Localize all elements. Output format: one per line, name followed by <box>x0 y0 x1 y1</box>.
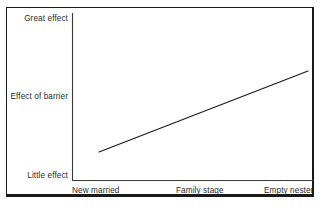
trend-line <box>99 71 308 152</box>
y-tick-label-great-effect: Great effect <box>8 14 68 23</box>
y-tick-label-little-effect: Little effect <box>8 171 68 180</box>
chart-figure: Great effect Effect of barrier Little ef… <box>0 0 322 207</box>
y-tick-label-effect-of-barrier: Effect of barrier <box>8 92 68 101</box>
x-tick-label-new-married: New married <box>72 186 120 195</box>
x-tick-label-empty-nester: Empty nester <box>264 186 313 195</box>
x-tick-label-family-stage: Family stage <box>176 186 224 195</box>
